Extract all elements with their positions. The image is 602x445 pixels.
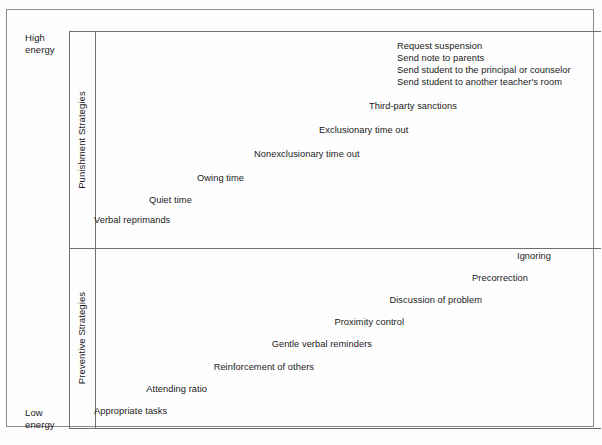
punishment-strategy-item: Send student to the principal or counsel… bbox=[397, 65, 571, 76]
band-divider-rule bbox=[69, 248, 601, 249]
preventive-strategy-item: Attending ratio bbox=[146, 384, 207, 395]
axis-label-low-energy: Low energy bbox=[25, 407, 55, 430]
band-label-column-right-rule bbox=[95, 31, 96, 429]
preventive-strategy-item: Ignoring bbox=[517, 251, 551, 262]
preventive-strategy-item: Reinforcement of others bbox=[214, 362, 314, 373]
punishment-strategy-item: Send student to another teacher's room bbox=[397, 77, 562, 88]
punishment-strategy-item: Nonexclusionary time out bbox=[254, 149, 360, 160]
plot-top-rule bbox=[69, 31, 601, 32]
plot-bottom-rule bbox=[69, 428, 601, 429]
punishment-strategy-item: Quiet time bbox=[149, 195, 192, 206]
punishment-strategy-item: Exclusionary time out bbox=[319, 125, 408, 136]
punishment-strategy-item: Third-party sanctions bbox=[369, 101, 457, 112]
punishment-strategy-item: Verbal reprimands bbox=[94, 215, 170, 226]
punishment-strategy-item: Owing time bbox=[197, 173, 244, 184]
diagram-outer-frame: High energy Low energy Punishment Strate… bbox=[6, 9, 594, 427]
preventive-strategy-item: Appropriate tasks bbox=[94, 406, 167, 417]
axis-label-high-energy: High energy bbox=[25, 32, 55, 55]
preventive-strategy-item: Discussion of problem bbox=[389, 295, 482, 306]
preventive-strategy-item: Precorrection bbox=[472, 273, 528, 284]
preventive-strategy-item: Gentle verbal reminders bbox=[272, 339, 372, 350]
preventive-strategy-item: Proximity control bbox=[334, 317, 404, 328]
punishment-strategy-item: Request suspension bbox=[397, 41, 482, 52]
band-label-preventive-strategies: Preventive Strategies bbox=[75, 246, 89, 430]
diagram-page: High energy Low energy Punishment Strate… bbox=[0, 0, 602, 445]
band-label-column-left-rule bbox=[69, 31, 70, 429]
punishment-strategy-item: Send note to parents bbox=[397, 53, 484, 64]
band-label-punishment-strategies: Punishment Strategies bbox=[75, 35, 89, 245]
